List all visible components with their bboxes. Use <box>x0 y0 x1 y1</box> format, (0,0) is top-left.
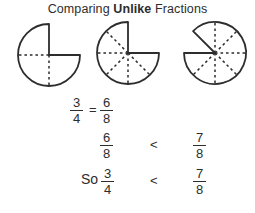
fraction-six-eighths: 6 8 <box>100 96 113 125</box>
denominator: 8 <box>100 145 113 160</box>
numerator: 3 <box>101 167 114 181</box>
fraction-three-fourths: 3 4 <box>101 167 114 196</box>
worksheet: Comparing Unlike Fractions 3 4 = 6 8 6 8… <box>0 0 255 213</box>
fraction-three-fourths: 3 4 <box>70 96 83 125</box>
title-suffix: Fractions <box>155 2 207 16</box>
denominator: 4 <box>101 181 114 196</box>
page-title: Comparing Unlike Fractions <box>0 2 255 17</box>
so-label: So <box>81 172 98 186</box>
numerator: 3 <box>70 96 83 110</box>
denominator: 4 <box>70 110 83 125</box>
equals-sign: = <box>89 103 97 116</box>
numerator: 7 <box>193 131 206 145</box>
fraction-six-eighths: 6 8 <box>100 131 113 160</box>
six-eighths-circle <box>97 22 159 84</box>
numerator: 7 <box>193 167 206 181</box>
title-emphasis: Unlike <box>113 2 151 16</box>
title-prefix: Comparing <box>48 2 110 16</box>
fraction-seven-eighths: 7 8 <box>193 131 206 160</box>
less-than-sign: < <box>150 138 158 151</box>
fraction-circles <box>0 0 255 213</box>
seven-eighths-circle <box>184 22 246 84</box>
denominator: 8 <box>100 110 113 125</box>
numerator: 6 <box>100 131 113 145</box>
numerator: 6 <box>100 96 113 110</box>
fraction-seven-eighths: 7 8 <box>193 167 206 196</box>
three-fourths-circle <box>18 24 80 86</box>
less-than-sign: < <box>150 174 158 187</box>
denominator: 8 <box>193 145 206 160</box>
denominator: 8 <box>193 181 206 196</box>
